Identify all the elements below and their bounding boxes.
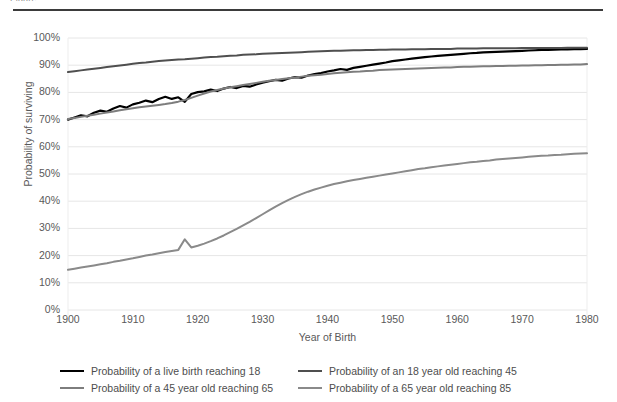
legend-swatch-line-icon xyxy=(298,370,322,372)
x-axis-title: Year of Birth xyxy=(68,331,587,343)
legend-row: Probability of a 45 year old reaching 65… xyxy=(60,379,600,396)
legend-label: Probability of a 45 year old reaching 65 xyxy=(91,382,273,394)
legend-label: Probability of an 18 year old reaching 4… xyxy=(329,365,517,377)
chart-figure: Figure 0%10%20%30%40%50%60%70%80%90%100%… xyxy=(0,0,617,402)
legend-label: Probability of a 65 year old reaching 85 xyxy=(329,382,511,394)
y-axis-title: Probability of surviving xyxy=(22,44,34,224)
legend-label: Probability of a live birth reaching 18 xyxy=(91,365,260,377)
x-axis-tick-label: 1950 xyxy=(366,313,418,325)
series-line-4 xyxy=(68,153,587,269)
y-axis-tick-label: 100% xyxy=(16,32,60,43)
x-axis-tick-label: 1910 xyxy=(107,313,159,325)
x-axis-tick-label: 1970 xyxy=(496,313,548,325)
legend-item[interactable]: Probability of an 18 year old reaching 4… xyxy=(298,365,517,377)
y-axis-tick-label: 10% xyxy=(16,277,60,288)
y-axis-tick-label: 30% xyxy=(16,222,60,233)
legend-item[interactable]: Probability of a live birth reaching 18 xyxy=(60,365,298,377)
series-line-1 xyxy=(68,49,587,120)
x-axis-tick-label: 1900 xyxy=(42,313,94,325)
x-axis-tick-label: 1940 xyxy=(302,313,354,325)
data-series-group xyxy=(68,48,587,270)
legend-swatch-line-icon xyxy=(60,370,84,372)
legend-swatch-line-icon xyxy=(298,387,322,389)
legend-row: Probability of a live birth reaching 18P… xyxy=(60,362,600,379)
legend-item[interactable]: Probability of a 65 year old reaching 85 xyxy=(298,382,511,394)
chart-legend: Probability of a live birth reaching 18P… xyxy=(60,362,600,396)
x-axis-tick-label: 1980 xyxy=(561,313,613,325)
legend-swatch-line-icon xyxy=(60,387,84,389)
x-axis-tick-label: 1930 xyxy=(237,313,289,325)
legend-item[interactable]: Probability of a 45 year old reaching 65 xyxy=(60,382,298,394)
y-axis-tick-label: 20% xyxy=(16,250,60,261)
x-axis-tick-label: 1920 xyxy=(172,313,224,325)
gridlines xyxy=(68,38,587,316)
x-axis-tick-label: 1960 xyxy=(431,313,483,325)
